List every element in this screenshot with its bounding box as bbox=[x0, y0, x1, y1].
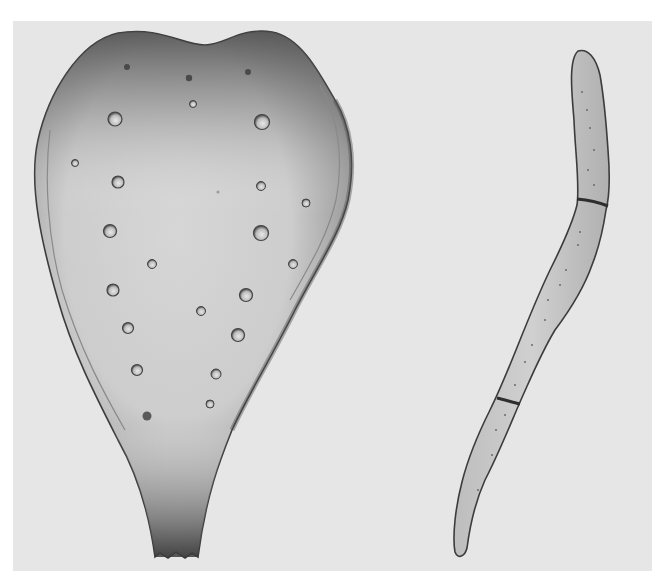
specimen-illustration bbox=[0, 0, 672, 580]
right-specimen bbox=[454, 50, 609, 556]
left-specimen bbox=[35, 31, 352, 558]
right-specimen-body bbox=[454, 50, 609, 556]
